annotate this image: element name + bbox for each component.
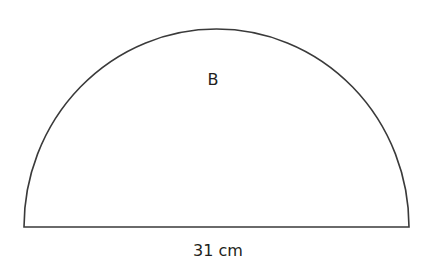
- diameter-label: 31 cm: [193, 241, 243, 260]
- semicircle-shape: [24, 29, 409, 227]
- region-label: B: [208, 70, 219, 89]
- semicircle-diagram: B 31 cm: [0, 0, 434, 262]
